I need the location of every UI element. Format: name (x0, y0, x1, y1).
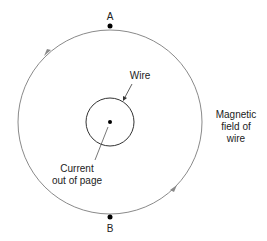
field-label-line2: field of (221, 121, 251, 132)
point-a-label: A (107, 11, 114, 22)
current-pointer-line (95, 127, 108, 160)
wire-label: Wire (130, 70, 151, 81)
magnetic-field-diagram: A B Wire Current out of page Magnetic fi… (0, 0, 267, 241)
point-a-dot (108, 24, 113, 29)
field-label-line1: Magnetic (216, 109, 257, 120)
current-dot (108, 120, 112, 124)
current-label-line1: Current (60, 163, 94, 174)
wire-pointer-line (124, 84, 132, 99)
current-label-line2: out of page (52, 175, 102, 186)
point-b-label: B (107, 223, 114, 234)
field-label-line3: wire (226, 133, 246, 144)
point-b-dot (108, 215, 113, 220)
